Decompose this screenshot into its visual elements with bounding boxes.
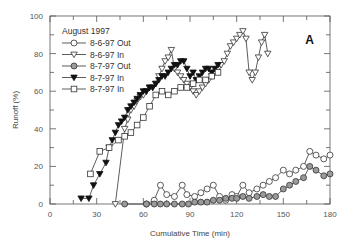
data-point bbox=[313, 167, 319, 173]
legend-label: 8-6-97 Out bbox=[90, 38, 131, 48]
data-point bbox=[112, 130, 118, 136]
data-point bbox=[301, 175, 307, 181]
legend-marker-icon bbox=[71, 86, 77, 92]
data-point bbox=[254, 193, 260, 199]
data-point bbox=[273, 175, 279, 181]
y-tick-label: 20 bbox=[34, 162, 43, 171]
x-tick-label: 180 bbox=[323, 210, 337, 219]
data-point bbox=[209, 73, 215, 79]
data-point bbox=[172, 88, 178, 94]
data-point bbox=[210, 197, 216, 203]
data-point bbox=[266, 193, 272, 199]
data-point bbox=[265, 51, 271, 57]
data-point bbox=[197, 77, 203, 83]
data-point bbox=[240, 193, 246, 199]
data-point bbox=[252, 70, 258, 76]
data-point bbox=[179, 182, 185, 188]
runoff-chart: 0306090120150180020406080100 August 1997… bbox=[0, 0, 350, 247]
x-tick-label: 30 bbox=[92, 210, 101, 219]
data-point bbox=[157, 201, 163, 207]
data-point bbox=[260, 182, 266, 188]
data-point bbox=[260, 192, 266, 198]
data-point bbox=[321, 173, 327, 179]
data-point bbox=[327, 171, 333, 177]
legend-marker-icon bbox=[71, 40, 77, 46]
legend-marker-icon bbox=[71, 52, 77, 58]
y-tick-label: 0 bbox=[39, 200, 44, 209]
data-point bbox=[223, 195, 229, 201]
data-point bbox=[192, 193, 198, 199]
data-point bbox=[116, 137, 122, 143]
data-point bbox=[307, 163, 313, 169]
data-point bbox=[287, 182, 293, 188]
data-point bbox=[159, 88, 165, 94]
data-point bbox=[134, 122, 140, 128]
data-point bbox=[179, 201, 185, 207]
data-point bbox=[280, 167, 286, 173]
data-point bbox=[88, 171, 94, 177]
data-point bbox=[280, 186, 286, 192]
y-tick-label: 80 bbox=[34, 50, 43, 59]
legend-label: 8-7-97 In bbox=[90, 84, 124, 94]
data-point bbox=[184, 85, 190, 91]
data-point bbox=[287, 171, 293, 177]
legend-marker-icon bbox=[71, 63, 77, 69]
data-point bbox=[198, 199, 204, 205]
data-point bbox=[293, 167, 299, 173]
data-point bbox=[153, 92, 159, 98]
legend-item: 8-7-97 In bbox=[62, 73, 124, 83]
data-point bbox=[249, 78, 255, 84]
data-point bbox=[224, 51, 230, 57]
data-point bbox=[192, 199, 198, 205]
data-point bbox=[157, 182, 163, 188]
data-point bbox=[215, 70, 221, 76]
data-point bbox=[246, 195, 252, 201]
y-tick-label: 60 bbox=[34, 87, 43, 96]
y-tick-label: 100 bbox=[30, 12, 44, 21]
data-point bbox=[106, 145, 112, 151]
x-tick-label: 90 bbox=[186, 210, 195, 219]
data-point bbox=[190, 81, 196, 87]
data-point bbox=[293, 178, 299, 184]
data-point bbox=[164, 201, 170, 207]
y-tick-label: 40 bbox=[34, 125, 43, 134]
data-point bbox=[165, 92, 171, 98]
legend-label: 8-7-97 In bbox=[90, 73, 124, 83]
data-point bbox=[178, 85, 184, 91]
data-point bbox=[210, 182, 216, 188]
legend-item: 8-7-97 In bbox=[62, 84, 124, 94]
data-point bbox=[151, 201, 157, 207]
data-point bbox=[97, 149, 103, 155]
data-point bbox=[240, 182, 246, 188]
data-point bbox=[184, 192, 190, 198]
data-point bbox=[147, 103, 153, 109]
data-point bbox=[143, 201, 149, 207]
data-point bbox=[185, 201, 191, 207]
x-axis-label: Cumulative Time (min) bbox=[150, 229, 230, 238]
data-point bbox=[122, 134, 128, 140]
series-triangle-down-open bbox=[112, 29, 271, 208]
data-point bbox=[97, 172, 103, 178]
data-point bbox=[217, 197, 223, 203]
x-tick-label: 60 bbox=[139, 210, 148, 219]
data-point bbox=[184, 66, 190, 72]
data-point bbox=[171, 201, 177, 207]
data-point bbox=[258, 40, 264, 46]
data-point bbox=[103, 160, 109, 166]
legend-title: August 1997 bbox=[62, 26, 110, 36]
data-point bbox=[203, 77, 209, 83]
data-point bbox=[198, 190, 204, 196]
data-point bbox=[141, 115, 147, 121]
data-point bbox=[246, 190, 252, 196]
data-point bbox=[109, 138, 115, 144]
data-point bbox=[266, 178, 272, 184]
data-point bbox=[122, 201, 128, 207]
data-point bbox=[254, 186, 260, 192]
panel-label: A bbox=[305, 33, 314, 47]
data-point bbox=[171, 193, 177, 199]
data-point bbox=[261, 32, 267, 38]
data-point bbox=[321, 156, 327, 162]
legend-label: 8-6-97 In bbox=[90, 50, 124, 60]
data-point bbox=[204, 199, 210, 205]
data-point bbox=[255, 55, 261, 61]
